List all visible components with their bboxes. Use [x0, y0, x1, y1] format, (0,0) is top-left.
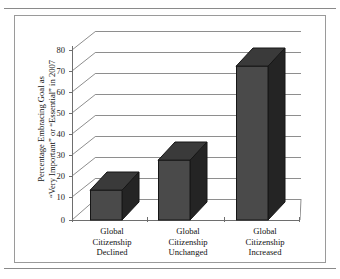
chart-plot-area: 80 70 60 50 40 30 20 10 [0, 0, 340, 279]
bar-global-citizenship-declined[interactable] [90, 172, 140, 221]
y-tickmark-10 [69, 197, 73, 198]
bar-3d-shape-3 [236, 48, 286, 221]
x-category-declined-line-3: Declined [76, 247, 148, 258]
x-category-increased-line-2: Citizenship [228, 237, 302, 248]
x-category-unchanged-line-1: Global [150, 226, 226, 237]
x-category-label-unchanged: Global Citizenship Unchanged [150, 226, 226, 258]
floor-right-edge [300, 199, 324, 221]
x-tickmark-3 [299, 217, 300, 222]
y-tickmark-30 [69, 155, 73, 156]
x-category-label-increased: Global Citizenship Increased [228, 226, 302, 258]
bar-global-citizenship-increased[interactable] [236, 48, 286, 221]
figure-page: 80 70 60 50 40 30 20 10 [0, 0, 340, 279]
x-category-unchanged-line-2: Citizenship [150, 237, 226, 248]
x-category-label-declined: Global Citizenship Declined [76, 226, 148, 258]
y-tickmark-60 [69, 92, 73, 93]
bar-3d-shape-1 [90, 172, 140, 221]
y-axis-title-line-2: “Very Important” or “Essential” in 2007 [47, 34, 58, 224]
gridline-riser-40 [72, 115, 97, 134]
bar-global-citizenship-unchanged[interactable] [158, 142, 208, 221]
y-axis-title-line-1: Percentage Embracing Goal as [36, 34, 47, 224]
x-category-increased-line-3: Increased [228, 247, 302, 258]
y-axis-title: Percentage Embracing Goal as “Very Impor… [36, 34, 58, 224]
gridline-riser-50 [72, 94, 97, 113]
y-tickmark-20 [69, 176, 73, 177]
y-tickmark-70 [69, 71, 73, 72]
x-category-declined-line-2: Citizenship [76, 237, 148, 248]
x-tickmark-1 [147, 217, 148, 222]
x-tickmark-2 [224, 217, 225, 222]
bar-3d-shape-2 [158, 142, 208, 221]
y-tickmark-80 [69, 50, 73, 51]
y-tickmark-40 [69, 134, 73, 135]
gridline-riser-60 [72, 73, 97, 92]
y-tickmark-50 [69, 113, 73, 114]
gridline-riser-70 [72, 52, 97, 71]
gridline-riser-80 [72, 31, 97, 50]
x-category-declined-line-1: Global [76, 226, 148, 237]
x-tickmark-0 [72, 217, 73, 222]
gridline-riser-30 [72, 136, 97, 155]
x-category-increased-line-1: Global [228, 226, 302, 237]
gridline-80 [96, 31, 301, 32]
x-category-unchanged-line-3: Unchanged [150, 247, 226, 258]
